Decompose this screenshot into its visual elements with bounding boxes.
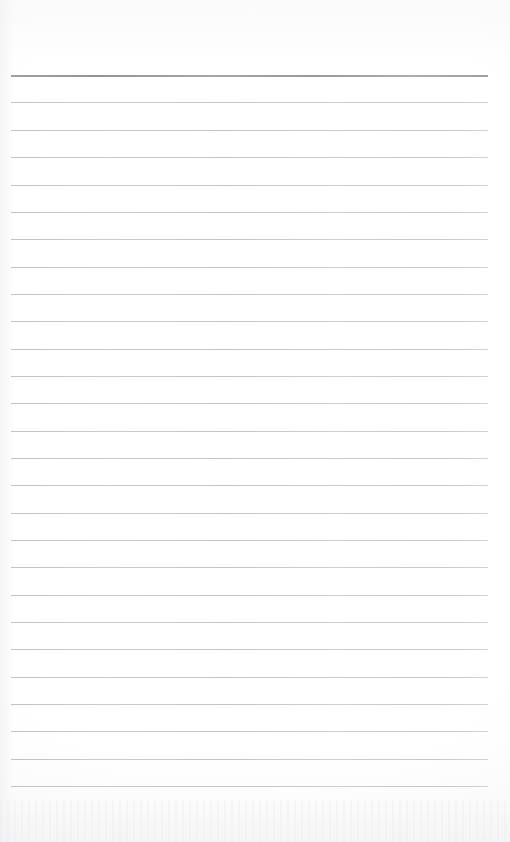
body-rule xyxy=(11,157,488,158)
body-rule xyxy=(11,649,488,650)
body-rule xyxy=(11,349,488,350)
body-rule xyxy=(11,403,488,404)
body-rule xyxy=(11,212,488,213)
body-rule xyxy=(11,786,488,787)
body-rule xyxy=(11,294,488,295)
body-rule xyxy=(11,458,488,459)
body-rule xyxy=(11,731,488,732)
body-rule xyxy=(11,102,488,103)
body-rule xyxy=(11,704,488,705)
body-rule xyxy=(11,759,488,760)
body-rule xyxy=(11,130,488,131)
body-rule xyxy=(11,321,488,322)
body-rule xyxy=(11,595,488,596)
paper-texture xyxy=(0,0,510,842)
body-rule xyxy=(11,622,488,623)
body-rule xyxy=(11,540,488,541)
body-rule xyxy=(11,267,488,268)
scan-noise-left xyxy=(0,0,14,842)
header-rule xyxy=(11,75,488,77)
body-rule xyxy=(11,567,488,568)
body-rule xyxy=(11,677,488,678)
body-rule xyxy=(11,513,488,514)
scanned-page xyxy=(0,0,510,842)
body-rule xyxy=(11,185,488,186)
body-rule xyxy=(11,485,488,486)
body-rule xyxy=(11,376,488,377)
body-rule xyxy=(11,431,488,432)
scan-noise-top xyxy=(0,0,510,60)
body-rule xyxy=(11,239,488,240)
scan-noise-bottom-band xyxy=(0,800,510,842)
